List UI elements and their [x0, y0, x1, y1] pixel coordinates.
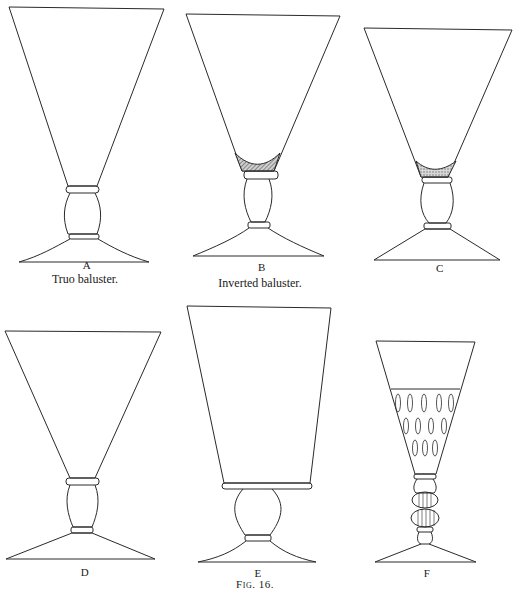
- figure-caption: Fig. 16.: [236, 578, 274, 590]
- glass-e: [187, 306, 331, 562]
- glass-a-letter: A: [83, 259, 91, 271]
- glass-f-letter: F: [424, 567, 431, 579]
- glass-illustrations: [0, 0, 515, 593]
- glass-d-letter: D: [81, 566, 89, 578]
- glass-b-letter: B: [258, 261, 266, 273]
- glass-c-letter: C: [436, 262, 444, 274]
- glass-c: [364, 28, 512, 260]
- glass-b-caption: Inverted baluster.: [218, 276, 301, 291]
- glass-a: [9, 7, 164, 262]
- glass-f: [375, 341, 476, 562]
- glass-d: [5, 331, 161, 559]
- glass-b: [186, 14, 340, 256]
- glass-a-caption: Truo baluster.: [52, 272, 118, 287]
